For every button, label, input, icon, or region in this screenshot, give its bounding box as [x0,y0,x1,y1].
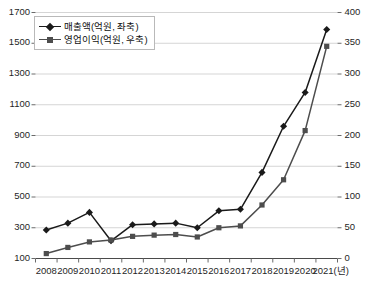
data-point-marker [87,239,92,244]
y-axis-left-tick-label: 1500 [0,37,30,47]
y-axis-right-tick-label: 400 [345,7,371,17]
data-point-marker [173,232,178,237]
y-axis-left-tick-label: 100 [0,253,30,263]
data-point-marker [323,26,330,33]
data-point-marker [302,89,309,96]
x-axis-tick-label: 2021(년) [309,266,353,276]
y-axis-right-tick-label: 300 [345,68,371,78]
data-point-marker [237,206,244,213]
data-point-marker [151,220,158,227]
y-axis-left-tick-label: 300 [0,222,30,232]
y-axis-right-tick-label: 150 [345,160,371,170]
data-point-marker [258,169,265,176]
legend-marker-square-icon [39,34,61,45]
data-point-marker [280,123,287,130]
legend-label-operating-profit: 영업이익(억원, 우축) [64,34,148,45]
data-point-marker [324,44,329,49]
y-axis-right-tick-label: 50 [345,222,371,232]
data-point-marker [259,202,264,207]
y-axis-right-tick-label: 250 [345,99,371,109]
series-line [46,46,326,253]
y-axis-left-tick-label: 700 [0,160,30,170]
data-point-marker [130,234,135,239]
y-axis-left-tick-label: 1700 [0,7,30,17]
data-point-marker [152,233,157,238]
legend-item-revenue: 매출액(억원, 좌축) [39,20,148,33]
data-point-marker [195,234,200,239]
y-axis-right-tick-label: 0 [345,253,371,263]
data-point-marker [172,220,179,227]
y-axis-left-tick-label: 1300 [0,68,30,78]
legend-item-operating-profit: 영업이익(억원, 우축) [39,33,148,46]
data-point-marker [281,177,286,182]
legend-label-revenue: 매출액(억원, 좌축) [64,21,139,32]
y-axis-right-tick-label: 100 [345,191,371,201]
data-point-marker [238,223,243,228]
data-point-marker [65,245,70,250]
y-axis-left-tick-label: 900 [0,130,30,140]
y-axis-left-tick-label: 1100 [0,99,30,109]
data-point-marker [303,128,308,133]
chart-legend: 매출액(억원, 좌축) 영업이익(억원, 우축) [34,16,155,50]
y-axis-right-tick-label: 350 [345,37,371,47]
chart-container: 매출액(억원, 좌축) 영업이익(억원, 우축) 100300500700900… [0,0,371,291]
y-axis-right-tick-label: 200 [345,130,371,140]
data-point-marker [216,225,221,230]
data-point-marker [44,251,49,256]
y-axis-left-tick-label: 500 [0,191,30,201]
data-point-marker [108,237,113,242]
legend-marker-diamond-icon [39,21,61,32]
data-point-marker [64,220,71,227]
